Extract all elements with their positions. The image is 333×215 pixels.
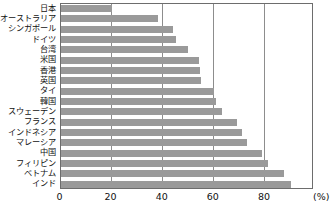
x-tick-label-40: 40 (156, 191, 168, 203)
bar (61, 26, 173, 33)
bar-row (61, 148, 312, 158)
bar (61, 98, 217, 105)
x-tick-label-20: 20 (105, 191, 117, 203)
x-tick-label-0: 0 (56, 191, 62, 203)
bar-row (61, 55, 312, 65)
bar-row (61, 14, 312, 24)
bar-row (61, 138, 312, 148)
category-label: インドネシア (8, 127, 55, 137)
category-label: フランス (24, 116, 56, 126)
bar (61, 181, 291, 188)
x-axis-unit-label: (%) (313, 191, 329, 203)
bar-row (61, 66, 312, 76)
category-label: 米国 (40, 54, 56, 64)
category-label: 韓国 (40, 96, 56, 106)
category-label: マレーシア (16, 137, 56, 147)
category-label: フィリピン (16, 158, 56, 168)
bar (61, 88, 214, 95)
bar-row (61, 179, 312, 189)
category-label: 台湾 (40, 44, 56, 54)
bar (61, 5, 112, 12)
bar (61, 108, 222, 115)
category-label: 日本 (40, 3, 56, 13)
bar (61, 129, 242, 136)
bar-row (61, 24, 312, 34)
category-label: スウェーデン (8, 106, 55, 116)
category-label: ドイツ (32, 34, 56, 44)
bar (61, 36, 176, 43)
x-tick-label-80: 80 (258, 191, 270, 203)
category-label: シンガポール (8, 23, 55, 33)
category-label: ベトナム (24, 168, 56, 178)
x-tick-label-60: 60 (207, 191, 219, 203)
horizontal-bar-chart: 日本オーストラリアシンガポールドイツ台湾米国香港英国タイ韓国スウェーデンフランス… (0, 0, 333, 215)
plot-area (60, 3, 313, 189)
bar-row (61, 4, 312, 14)
bar (61, 46, 189, 53)
bar-row (61, 128, 312, 138)
bar (61, 150, 263, 157)
bar (61, 119, 237, 126)
bar-row (61, 86, 312, 96)
bar-row (61, 117, 312, 127)
bar-row (61, 35, 312, 45)
bar-row (61, 107, 312, 117)
category-label: インド (32, 178, 56, 188)
category-label: 中国 (40, 147, 56, 157)
bar (61, 57, 199, 64)
bar-row (61, 45, 312, 55)
category-label: タイ (40, 85, 56, 95)
bar-row (61, 76, 312, 86)
category-label: オーストラリア (0, 13, 55, 23)
bar-row (61, 159, 312, 169)
category-label: 香港 (40, 65, 56, 75)
category-label: 英国 (40, 75, 56, 85)
bar (61, 139, 248, 146)
bar-row (61, 169, 312, 179)
bar-row (61, 97, 312, 107)
bar (61, 160, 268, 167)
bar (61, 77, 202, 84)
bar (61, 15, 158, 22)
bar (61, 67, 200, 74)
bar (61, 170, 285, 177)
bar-rows (61, 4, 312, 188)
